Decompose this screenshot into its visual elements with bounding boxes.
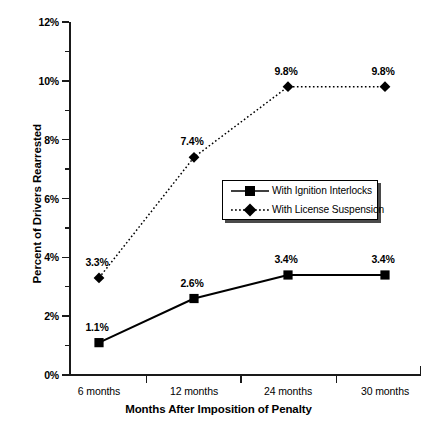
y-tick-major — [62, 315, 69, 316]
y-tick-label: 0% — [44, 370, 59, 381]
legend-marker-filled-square-icon — [228, 182, 272, 200]
data-point-label: 2.6% — [180, 278, 203, 289]
x-tick-major — [240, 375, 241, 383]
x-tick-label: 12 months — [149, 386, 239, 397]
x-axis-line — [69, 374, 421, 376]
x-tick-major — [146, 375, 147, 383]
data-point-label: 3.3% — [85, 257, 108, 268]
y-tick-label: 8% — [44, 135, 59, 146]
y-tick-major — [62, 21, 69, 22]
x-axis-end-cap — [420, 366, 422, 375]
y-tick-minor — [65, 227, 70, 228]
y-tick-minor — [65, 51, 70, 52]
data-point-marker-diamond — [94, 273, 105, 284]
data-point-label: 9.8% — [371, 66, 394, 77]
y-tick-major — [62, 374, 69, 375]
chart-figure: 0%2%4%6%8%10%12% 6 months12 months24 mon… — [0, 0, 437, 428]
legend-item-license-suspension: With License Suspension — [223, 200, 377, 220]
x-tick-label: 30 months — [340, 386, 430, 397]
legend-item-ignition-interlocks: With Ignition Interlocks — [223, 181, 377, 201]
data-point-marker-square — [380, 270, 389, 279]
data-point-label: 1.1% — [85, 322, 108, 333]
data-point-marker-square — [94, 338, 103, 347]
data-point-marker-diamond — [380, 81, 391, 92]
y-tick-label: 12% — [39, 17, 59, 28]
y-tick-label: 4% — [44, 252, 59, 263]
y-tick-major — [62, 198, 69, 199]
y-axis-title: Percent of Drivers Rearrested — [32, 74, 44, 334]
legend-label: With Ignition Interlocks — [272, 186, 372, 196]
x-tick-label: 6 months — [54, 386, 144, 397]
y-tick-major — [62, 139, 69, 140]
data-point-marker-diamond — [189, 152, 200, 163]
data-point-label: 9.8% — [274, 66, 297, 77]
data-point-label: 3.4% — [274, 254, 297, 265]
data-point-marker-square — [283, 270, 292, 279]
x-tick-label: 24 months — [243, 386, 333, 397]
y-axis-line — [69, 22, 71, 375]
y-tick-label: 2% — [44, 311, 59, 322]
chart-legend: With Ignition Interlocks With License Su… — [222, 180, 378, 220]
y-tick-major — [62, 80, 69, 81]
legend-marker-filled-diamond-icon — [228, 201, 272, 219]
y-tick-label: 6% — [44, 194, 59, 205]
data-point-marker-square — [189, 294, 198, 303]
series-ignition-interlocks — [94, 270, 389, 347]
y-tick-minor — [65, 110, 70, 111]
data-point-label: 3.4% — [371, 254, 394, 265]
y-tick-minor — [65, 286, 70, 287]
data-point-label: 7.4% — [180, 136, 203, 147]
x-tick-major — [336, 375, 337, 383]
y-tick-minor — [65, 345, 70, 346]
legend-label: With License Suspension — [272, 205, 384, 215]
y-tick-minor — [65, 168, 70, 169]
data-point-marker-diamond — [283, 81, 294, 92]
x-axis-title: Months After Imposition of Penalty — [0, 404, 437, 416]
y-tick-major — [62, 257, 69, 258]
